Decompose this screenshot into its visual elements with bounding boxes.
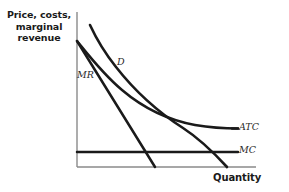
demand-label: D (117, 56, 125, 67)
y-axis-label: Price, costs, marginal revenue (6, 9, 72, 44)
x-axis-label: Quantity (213, 172, 261, 183)
chart-figure: Price, costs, marginal revenue Quantity … (0, 0, 289, 192)
marginal-revenue-label: MR (77, 69, 94, 80)
marginal-cost-label: MC (239, 144, 256, 155)
atc-curve (77, 41, 238, 129)
average-total-cost-label: ATC (239, 121, 259, 132)
